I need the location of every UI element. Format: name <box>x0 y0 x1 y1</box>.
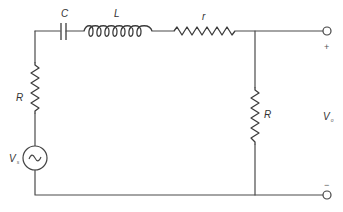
inductor <box>84 26 152 37</box>
output-terminal-positive <box>323 27 331 35</box>
capacitor <box>61 23 66 40</box>
source-resistor <box>31 62 39 114</box>
output-terminal-negative <box>323 191 331 199</box>
output-negative-sign: − <box>324 180 329 190</box>
source-resistor-label: R <box>16 92 23 103</box>
circuit-diagram: C L r + R Vs R − Vo <box>0 0 343 212</box>
series-resistor-label: r <box>202 11 206 22</box>
wire-source-to-bottom <box>35 170 323 195</box>
output-positive-sign: + <box>324 42 329 52</box>
source-label: Vs <box>9 153 20 165</box>
inductor-label: L <box>114 8 120 19</box>
output-voltage-label: Vo <box>323 111 334 123</box>
load-resistor-label: R <box>264 109 271 120</box>
load-resistor <box>251 87 259 145</box>
ac-source <box>23 146 47 170</box>
capacitor-label: C <box>61 8 69 19</box>
series-resistor <box>174 27 235 35</box>
